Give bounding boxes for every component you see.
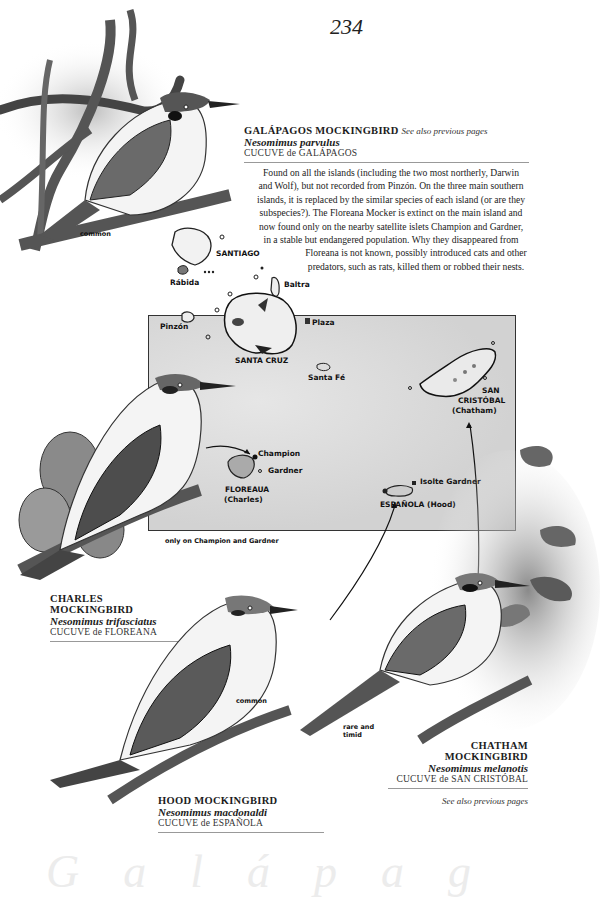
hood-mockingbird-entry: HOOD MOCKINGBIRD Nesomimus macdonaldi CU…	[158, 795, 324, 833]
divider	[388, 788, 528, 789]
section-watermark: Galápag	[0, 845, 604, 895]
charles-note: only on Champion and Gardner	[165, 537, 279, 545]
map-label-baltra: Baltra	[284, 280, 310, 289]
chatham-note-line: rare and	[343, 723, 374, 731]
chatham-note-line: timid	[343, 731, 374, 739]
scientific-name: Nesomimus melanotis	[388, 762, 528, 774]
map-label-santa-fe: Santa Fé	[308, 373, 345, 382]
map-label-chatham: (Chatham)	[452, 406, 497, 415]
map-label-santa-cruz: SANTA CRUZ	[235, 356, 288, 365]
chatham-mockingbird-illustration	[290, 420, 583, 740]
local-name: CUCUVE de SAN CRISTÓBAL	[388, 774, 528, 784]
charles-mockingbird-illustration	[0, 360, 230, 580]
local-name: CUCUVE de ESPAÑOLA	[158, 818, 324, 828]
chatham-mockingbird-entry: CHATHAM MOCKINGBIRD Nesomimus melanotis …	[388, 740, 528, 806]
map-label-santiago: SANTIAGO	[216, 249, 260, 258]
hood-mockingbird-illustration	[30, 580, 310, 800]
map-label-rabida: Rábida	[170, 278, 199, 287]
entry-title: HOOD MOCKINGBIRD	[158, 795, 324, 806]
map-label-plaza: Plaza	[312, 318, 335, 327]
map-label-floreana: FLOREAUA	[225, 485, 269, 494]
hood-note: common	[236, 697, 267, 705]
map-label-san-cristobal: CRISTÓBAL	[458, 396, 505, 405]
map-label-san-cristobal: SAN	[482, 386, 499, 395]
entry-title: MOCKINGBIRD	[388, 751, 528, 762]
chatham-note: rare and timid	[343, 723, 374, 739]
divider	[158, 832, 324, 833]
scientific-name: Nesomimus macdonaldi	[158, 806, 324, 818]
entry-title: CHATHAM	[388, 740, 528, 751]
see-also-link[interactable]: See also previous pages	[442, 796, 528, 806]
map-label-pinzon: Pinzón	[160, 322, 188, 331]
